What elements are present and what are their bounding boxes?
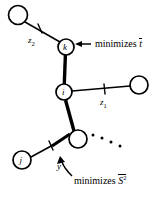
branch-label-z2: z2 [28,36,35,47]
tick-mark-z1 [104,84,105,94]
branch-label-z1: z1 [100,98,107,109]
callout-arrow-head-top [75,41,82,47]
ellipsis-dot-4 [119,145,122,148]
node-label-k: k [63,43,67,52]
branch-junction-to-j [52,134,70,146]
branch-label-z1-subscript: 1 [104,102,107,109]
annotation-minimizes-s2-symbol-group: S2 [118,174,126,187]
branch-junction-to-j-thin [31,145,53,157]
node-tip-top-left [9,6,28,25]
branch-i-to-tip-right [72,86,130,91]
branch-label-y-base: y [57,161,61,171]
ellipsis-dot-2 [101,137,104,140]
annotation-minimizes-t-symbol: t [139,38,142,50]
annotation-minimizes-s2: minimizes S2 [74,174,126,187]
tick-mark-z2 [38,24,42,33]
ellipsis-dot-3 [110,141,113,144]
node-label-i: i [62,88,65,97]
callout-arrow-curve-bottom [62,162,72,176]
phylogenetic-tree-figure: k i j z2 z1 y minimizes t minimizes S2 [0,0,161,199]
node-label-j: j [20,156,23,165]
ellipsis-dot-1 [92,134,95,137]
branch-k-to-i [64,55,65,84]
node-tip-right [130,76,148,94]
node-lower-junction-circle [69,130,87,148]
branch-i-to-junction [66,100,75,131]
annotation-minimizes-t: minimizes t [95,38,142,50]
tree-graphic [0,0,161,199]
branch-label-y: y [57,162,61,171]
annotation-minimizes-s2-superscript: 2 [123,174,126,181]
annotation-minimizes-s2-text: minimizes [74,175,116,186]
annotation-minimizes-t-text: minimizes [95,38,137,49]
branch-label-z2-subscript: 2 [32,40,35,47]
